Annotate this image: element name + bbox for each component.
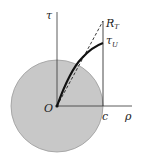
origin-label: O (44, 102, 53, 115)
tau-axis-label: τ (46, 9, 53, 22)
RT-label: RT (105, 17, 120, 31)
origin-dot (55, 104, 58, 107)
tauU-label: τU (106, 34, 119, 49)
RT-main: R (105, 17, 114, 30)
tauU-sub: U (112, 41, 119, 49)
diagram-canvas: τ ρ O c RT τU (0, 0, 148, 159)
rho-axis-label: ρ (124, 110, 132, 123)
c-label: c (102, 110, 108, 123)
RT-sub: T (114, 23, 120, 31)
